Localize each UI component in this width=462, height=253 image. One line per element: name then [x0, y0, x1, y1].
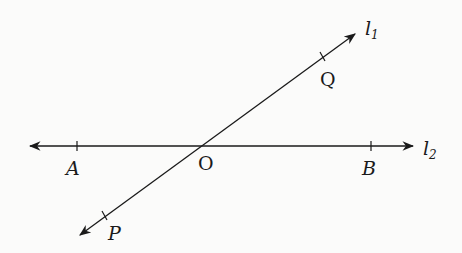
label-P: P — [107, 222, 122, 244]
label-O: O — [198, 152, 214, 174]
label-A: A — [64, 157, 80, 179]
label-l1: l1 — [365, 17, 379, 42]
label-Q: Q — [320, 68, 336, 90]
label-l2: l2 — [423, 137, 437, 162]
line-l1 — [80, 34, 355, 235]
intersecting-lines-diagram: l1 l2 O A B Q P — [0, 0, 462, 253]
label-B: B — [361, 157, 376, 179]
